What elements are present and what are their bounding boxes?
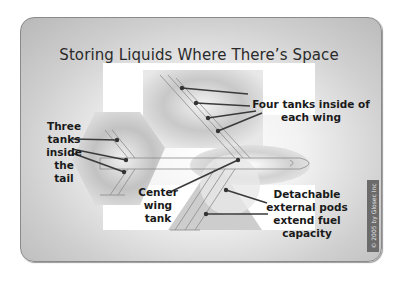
copyright-badge: © 2005 by Glosec Inc <box>367 180 379 252</box>
label-line: Detachable <box>266 188 348 201</box>
label-line: Three <box>44 120 84 133</box>
label-line: tanks <box>44 133 84 146</box>
label-center-tank: Center wing tank <box>136 186 180 225</box>
label-line: wing <box>136 199 180 212</box>
label-line: tank <box>136 212 180 225</box>
label-line: each wing <box>252 111 370 124</box>
label-wing-tanks: Four tanks inside of each wing <box>252 98 370 124</box>
label-line: capacity <box>266 227 348 240</box>
label-tail-tanks: Three tanks inside the tail <box>44 120 84 185</box>
diagram-title: Storing Liquids Where There’s Space <box>0 46 398 64</box>
label-line: Center <box>136 186 180 199</box>
label-line: external pods <box>266 201 348 214</box>
wing-tank-region <box>143 70 263 148</box>
label-line: Four tanks inside of <box>252 98 370 111</box>
label-line: inside <box>44 146 84 159</box>
label-external-pods: Detachable external pods extend fuel cap… <box>266 188 348 240</box>
copyright-text: © 2005 by Glosec Inc <box>370 183 377 248</box>
label-line: the tail <box>44 159 84 185</box>
label-line: extend fuel <box>266 214 348 227</box>
